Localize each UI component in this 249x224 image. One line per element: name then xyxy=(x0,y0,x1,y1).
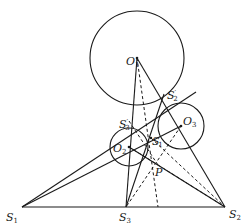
dashed-p-s2 xyxy=(158,165,225,207)
label-s3-prime: S′3 xyxy=(119,118,130,132)
label-o2: O2 xyxy=(113,142,127,156)
center-dot-o3 xyxy=(180,125,183,128)
line-s2-o1 xyxy=(137,58,225,207)
label-s1: S1 xyxy=(6,211,18,224)
line-s1-s2prime xyxy=(22,92,196,207)
dashed-o1-p xyxy=(137,58,158,207)
geometry-diagram: O1 O2 O3 S1 S2 S3 S′1 S′2 S′3 P xyxy=(0,0,249,224)
label-s2-prime: S′2 xyxy=(167,89,178,103)
label-s1-prime: S′1 xyxy=(152,135,163,149)
center-dot-o1 xyxy=(136,57,139,60)
center-dot-o2 xyxy=(128,146,131,149)
label-s2: S2 xyxy=(229,208,241,222)
label-p: P xyxy=(154,166,163,179)
label-s3: S3 xyxy=(119,211,131,224)
label-o3: O3 xyxy=(183,115,197,129)
